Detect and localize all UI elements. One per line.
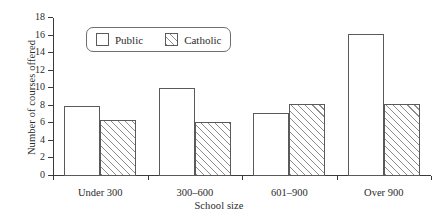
x-axis-title: School size — [0, 200, 438, 211]
y-axis-line — [53, 18, 54, 176]
bar-public-3 — [348, 34, 384, 176]
x-tick — [148, 176, 149, 180]
x-tick — [431, 176, 432, 180]
y-tick-label: 8 — [40, 98, 45, 111]
y-tick-label: 18 — [35, 10, 45, 23]
y-tick-label: 14 — [35, 45, 45, 58]
chart-legend: Public Catholic — [86, 27, 231, 52]
empty-square-swatch — [96, 33, 109, 46]
bar-catholic-3 — [384, 104, 420, 176]
x-category-label: 601–900 — [271, 187, 308, 198]
bar-catholic-2 — [289, 104, 325, 176]
x-category-label: Over 900 — [364, 187, 403, 198]
bar-catholic-0 — [100, 120, 136, 176]
x-category-label: 300–600 — [176, 187, 213, 198]
y-tick-label: 2 — [40, 150, 45, 163]
y-tick: 12 — [48, 70, 53, 71]
legend-label-public: Public — [115, 34, 143, 46]
bar-chart-figure: Number of courses offered School size 02… — [0, 0, 438, 224]
y-tick: 14 — [48, 52, 53, 53]
y-tick-label: 4 — [40, 133, 45, 146]
x-tick — [242, 176, 243, 180]
legend-label-catholic: Catholic — [184, 34, 221, 46]
y-tick-label: 0 — [40, 168, 45, 181]
hatched-square-swatch — [165, 33, 178, 46]
y-tick: 2 — [48, 157, 53, 158]
y-tick: 8 — [48, 105, 53, 106]
y-tick-label: 16 — [35, 28, 45, 41]
x-tick — [337, 176, 338, 180]
x-tick — [53, 176, 54, 180]
y-tick: 6 — [48, 122, 53, 123]
legend-entry-catholic: Catholic — [165, 33, 221, 46]
y-tick: 10 — [48, 87, 53, 88]
y-tick: 18 — [48, 17, 53, 18]
y-tick-label: 10 — [35, 80, 45, 93]
bar-catholic-1 — [195, 122, 231, 176]
legend-entry-public: Public — [96, 33, 143, 46]
bar-public-2 — [253, 113, 289, 176]
y-tick-label: 12 — [35, 63, 45, 76]
bar-public-1 — [159, 88, 195, 176]
y-tick: 16 — [48, 35, 53, 36]
x-category-label: Under 300 — [78, 187, 123, 198]
bar-public-0 — [64, 106, 100, 176]
y-tick: 4 — [48, 140, 53, 141]
y-tick-label: 6 — [40, 115, 45, 128]
